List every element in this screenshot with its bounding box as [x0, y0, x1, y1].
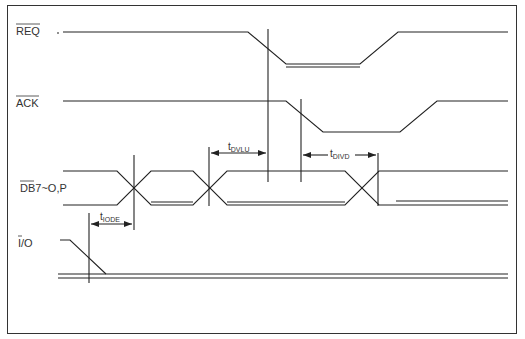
- timing-diagram: REQ ACK DB7~O,P I/O: [0, 0, 525, 339]
- svg-text:DB7~O,P: DB7~O,P: [20, 182, 67, 194]
- db-waveform: [63, 171, 508, 205]
- signal-label-db: DB7~O,P: [20, 181, 67, 194]
- svg-text:I/O: I/O: [18, 237, 33, 249]
- signal-label-req: REQ: [16, 24, 40, 37]
- svg-text:ACK: ACK: [16, 97, 39, 109]
- timing-tdivd: tDIVD: [303, 148, 376, 160]
- signal-label-io: I/O: [18, 236, 33, 249]
- io-waveform: [58, 240, 508, 278]
- svg-text:REQ: REQ: [16, 25, 40, 37]
- timing-tiode: tIODE: [91, 211, 132, 227]
- ack-waveform: [63, 101, 508, 132]
- svg-text:tDVLU: tDVLU: [228, 141, 249, 153]
- timing-tdvlu: tDVLU: [211, 141, 266, 156]
- svg-text:tDIVD: tDIVD: [330, 148, 350, 160]
- req-waveform: [57, 32, 508, 67]
- svg-text:tIODE: tIODE: [100, 211, 120, 223]
- signal-label-ack: ACK: [16, 96, 39, 109]
